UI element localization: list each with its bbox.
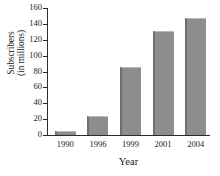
y-axis-tick-label: 20 (18, 113, 42, 123)
y-axis-tick-label: 0 (18, 129, 42, 139)
bar (87, 116, 108, 135)
bar (55, 131, 76, 135)
bar (153, 31, 174, 135)
y-axis-tick-label: 140 (18, 18, 42, 28)
y-axis-tick-mark (43, 87, 48, 88)
x-axis-title: Year (47, 156, 210, 167)
x-axis-tick-label: 1996 (82, 139, 115, 149)
x-axis-tick-label: 2001 (147, 139, 180, 149)
bar-chart-figure: Subscribers (in millions) 02040608010012… (0, 0, 220, 176)
plot-area: 020406080100120140160 199019961999200120… (47, 8, 210, 136)
x-axis-tick-label: 2004 (179, 139, 212, 149)
y-axis-tick-mark (43, 72, 48, 73)
x-axis-tick-label: 1990 (49, 139, 82, 149)
y-axis-tick-label: 100 (18, 50, 42, 60)
y-axis-tick-label: 40 (18, 97, 42, 107)
bar (185, 18, 206, 135)
y-axis-tick-label: 60 (18, 81, 42, 91)
y-axis-tick-label: 120 (18, 34, 42, 44)
bar (120, 67, 141, 135)
y-axis-tick-mark (43, 119, 48, 120)
y-axis-tick-label: 160 (18, 2, 42, 12)
y-axis-tick-label: 80 (18, 66, 42, 76)
x-axis-tick-label: 1999 (114, 139, 147, 149)
y-axis-tick-mark (43, 103, 48, 104)
x-axis-line (47, 135, 210, 136)
y-axis-tick-mark (43, 40, 48, 41)
y-axis-tick-mark (43, 56, 48, 57)
y-axis-tick-mark (43, 8, 48, 9)
y-axis-tick-mark (43, 135, 48, 136)
y-axis-tick-mark (43, 24, 48, 25)
